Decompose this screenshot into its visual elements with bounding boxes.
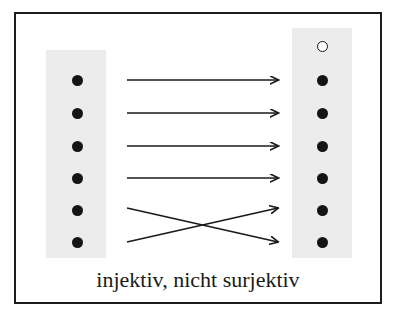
right-set-element-c4 [317,173,328,184]
left-set-element-d4 [72,173,83,184]
left-set-element-d2 [72,108,83,119]
left-set-element-d5 [72,205,83,216]
right-set-element-c0 [317,41,328,52]
left-set-element-d1 [72,75,83,86]
left-set-element-d3 [72,141,83,152]
left-set-element-d6 [72,237,83,248]
right-set-element-c1 [317,75,328,86]
diagram-caption: injektiv, nicht surjektiv [16,266,380,294]
right-set-element-c5 [317,205,328,216]
right-set-element-c2 [317,108,328,119]
right-set-element-c6 [317,237,328,248]
function-diagram-figure: injektiv, nicht surjektiv [0,0,397,323]
right-set-element-c3 [317,141,328,152]
